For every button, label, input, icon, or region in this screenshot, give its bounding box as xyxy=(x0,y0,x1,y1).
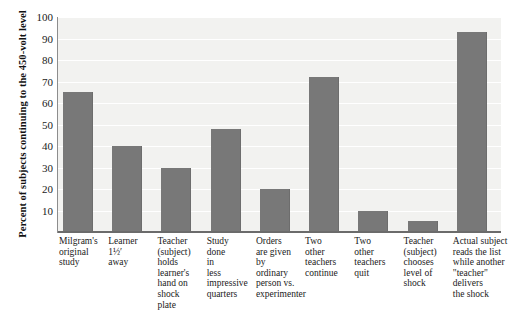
bar xyxy=(211,129,241,232)
y-tick-label: 10 xyxy=(27,206,53,217)
y-tick-label: 30 xyxy=(27,163,53,174)
y-tick-label: 40 xyxy=(27,141,53,152)
y-tick-label: 100 xyxy=(27,12,53,23)
y-tick-label: 70 xyxy=(27,77,53,88)
bar xyxy=(63,92,93,232)
y-tick-label: 90 xyxy=(27,34,53,45)
bar xyxy=(260,189,290,232)
x-axis-category-labels: Milgram's original studyLearner 1½′ away… xyxy=(58,236,501,314)
bar xyxy=(112,146,142,232)
y-tick-label: 20 xyxy=(27,184,53,195)
bar xyxy=(309,77,339,232)
bars-layer xyxy=(58,17,501,232)
y-tick-label: 50 xyxy=(27,120,53,131)
bar xyxy=(358,211,388,233)
bar xyxy=(457,32,487,232)
y-tick-label: 60 xyxy=(27,98,53,109)
x-axis-baseline xyxy=(58,231,501,233)
y-tick-label: 80 xyxy=(27,55,53,66)
bar xyxy=(161,168,191,233)
x-axis-label: Actual subject reads the list while anot… xyxy=(453,236,510,300)
y-axis-tick-labels: 100 90 80 70 60 50 40 30 20 10 xyxy=(22,17,53,232)
